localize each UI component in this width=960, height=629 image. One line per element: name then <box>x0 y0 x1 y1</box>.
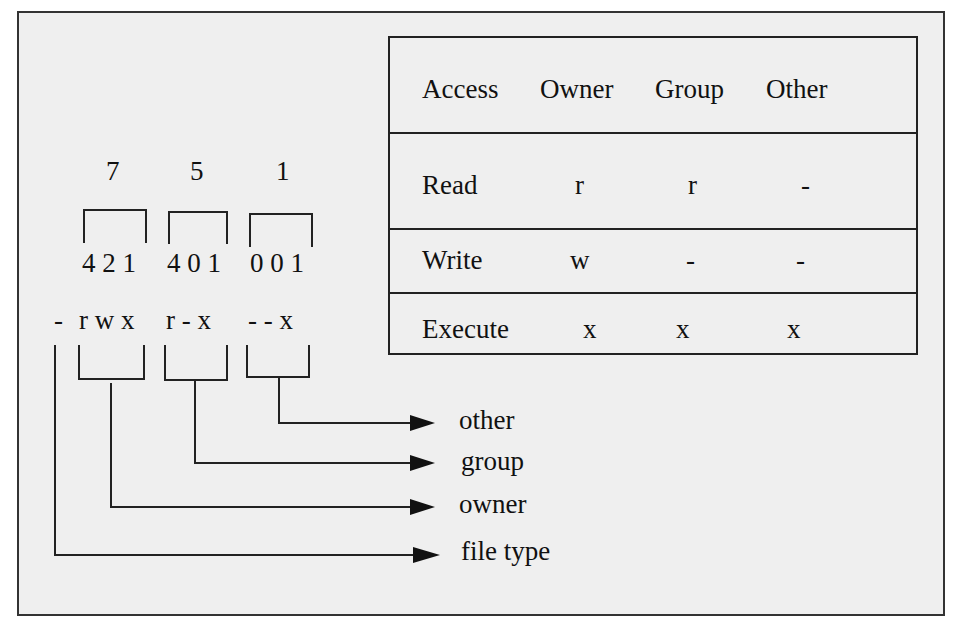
header-other: Other <box>766 74 827 105</box>
header-group: Group <box>655 74 724 105</box>
table-row: Write w - - <box>390 230 916 294</box>
arrow-owner-icon <box>410 499 435 515</box>
table-header-row: Access Owner Group Other <box>390 38 916 134</box>
arrow-other-icon <box>410 415 435 431</box>
row-other: - <box>801 170 810 201</box>
row-access: Read <box>422 170 477 201</box>
header-owner: Owner <box>540 74 613 105</box>
arrow-group-icon <box>410 455 435 471</box>
row-group: x <box>676 314 690 345</box>
row-other: - <box>796 245 805 276</box>
table-row: Execute x x x <box>390 294 916 355</box>
row-owner: x <box>583 314 597 345</box>
label-owner: owner <box>459 489 526 520</box>
row-owner: r <box>575 170 584 201</box>
header-access: Access <box>422 74 498 105</box>
table-row: Read r r - <box>390 134 916 230</box>
label-other: other <box>459 405 514 436</box>
label-group: group <box>461 446 524 477</box>
row-owner: w <box>570 245 590 276</box>
permissions-table: Access Owner Group Other Read r r - Writ… <box>388 36 918 355</box>
row-access: Execute <box>422 314 509 345</box>
row-access: Write <box>422 245 482 276</box>
arrow-file-type-icon <box>413 547 440 563</box>
row-group: - <box>686 245 695 276</box>
row-other: x <box>787 314 801 345</box>
label-file-type: file type <box>461 536 550 567</box>
row-group: r <box>688 170 697 201</box>
